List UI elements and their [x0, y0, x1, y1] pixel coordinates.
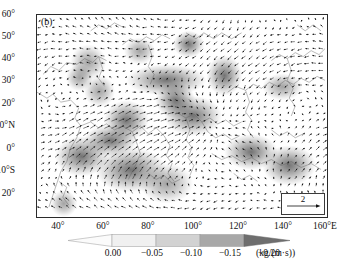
colorbar-tick-label: −0.10: [180, 247, 202, 260]
colorbar-tick-label: −0.05: [141, 247, 163, 260]
colorbar-swatches: [68, 234, 290, 247]
y-tick-label: 60°: [0, 9, 15, 19]
y-tick-label: 20°: [0, 188, 15, 198]
figure-panel-b: (b) 2 60° 50° 40° 30° 20° 10°N 0° 10°S 2…: [0, 0, 345, 266]
vector-scale-key: 2: [281, 193, 325, 215]
shaded-region: [262, 73, 302, 100]
y-tick-label: 50°: [0, 31, 15, 41]
x-tick-label: 120°: [229, 221, 247, 232]
y-tick-label: 30°: [0, 75, 15, 85]
map-plot-area: (b) 2: [36, 14, 328, 218]
colorbar-unit-label: (kg/(m·s)): [256, 247, 295, 260]
shaded-region: [207, 55, 243, 95]
vector-scale-arrow-icon: [287, 203, 321, 209]
y-tick-label: 20°: [0, 98, 15, 108]
y-tick-label: 10°S: [0, 165, 15, 175]
colorbar-extend-right: [244, 235, 290, 247]
y-tick-label: 10°N: [0, 120, 15, 130]
colorbar-block: [112, 235, 156, 247]
colorbar-tick-label: 0.00: [105, 247, 122, 260]
shaded-region: [84, 76, 115, 107]
x-tick-label: 80°: [141, 221, 154, 232]
x-tick-label: 40°: [51, 221, 64, 232]
x-tick-label: 100°: [184, 221, 202, 232]
map-canvas: [37, 15, 327, 217]
colorbar-block: [156, 235, 200, 247]
colorbar: [68, 234, 290, 247]
shaded-region: [140, 163, 194, 203]
colorbar-tick-labels: 0.00 −0.05 −0.10 −0.15 −0.20 (kg/(m·s)): [0, 247, 345, 263]
colorbar-tick-label: −0.15: [219, 247, 241, 260]
y-tick-label: 0°: [0, 143, 15, 153]
x-tick-label: 160°E: [313, 221, 337, 232]
x-tick-label: 140°: [274, 221, 292, 232]
y-tick-label: 40°: [0, 53, 15, 63]
colorbar-extend-left: [68, 235, 112, 247]
x-tick-label: 60°: [96, 221, 109, 232]
shaded-region: [262, 145, 316, 185]
shaded-region: [164, 96, 222, 136]
panel-label: (b): [41, 16, 52, 27]
colorbar-block: [200, 235, 244, 247]
